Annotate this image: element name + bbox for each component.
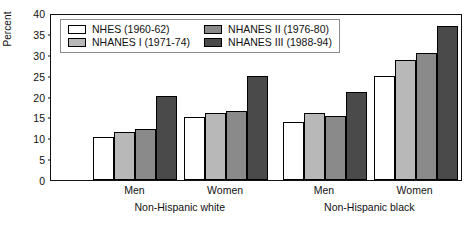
legend-label-1: NHANES I (1971-74) [92,36,190,48]
bar-3-3 [437,26,458,180]
bar-0-0 [93,137,114,180]
bar-3-2 [416,53,437,180]
y-tick-label-30: 30 [33,51,45,61]
white-swatch-icon [68,25,86,34]
x-tick-label-2: Men [314,184,334,196]
x-tick-label-1: Women [207,184,243,196]
medium-gray-swatch-icon [204,25,222,34]
bar-2-2 [325,116,346,180]
y-tick-label-40: 40 [33,9,45,19]
y-tick-label-20: 20 [33,93,45,103]
legend-label-0: NHES (1960-62) [92,23,170,35]
y-axis-title: Percent [2,0,16,74]
bar-0-1 [114,132,135,180]
bar-3-1 [395,60,416,180]
bar-1-3 [247,76,268,180]
y-tick-label-35: 35 [33,30,45,40]
bar-2-0 [283,122,304,180]
legend-label-2: NHANES II (1976-80) [228,23,329,35]
bar-3-0 [374,76,395,180]
x-group-label-1: Non-Hispanic black [324,201,414,213]
y-tick-label-0: 0 [39,176,45,186]
x-axis-tick-labels: MenWomenMenWomen [50,184,462,198]
x-axis-group-labels: Non-Hispanic whiteNon-Hispanic black [50,201,462,215]
bar-0-3 [156,96,177,180]
bar-2-1 [304,113,325,180]
legend-item-1: NHANES I (1971-74) [68,36,190,48]
legend-item-3: NHANES III (1988-94) [204,36,332,48]
y-axis-ticks: 0510152025303540 [20,14,48,181]
x-tick-label-0: Men [124,184,144,196]
bar-chart: Percent 0510152025303540 NHES (1960-62)N… [0,0,470,227]
chart-legend: NHES (1960-62)NHANES II (1976-80)NHANES … [60,19,340,53]
y-tick-label-10: 10 [33,134,45,144]
legend-label-3: NHANES III (1988-94) [228,36,332,48]
y-tick-label-15: 15 [33,113,45,123]
dark-gray-swatch-icon [204,38,222,47]
bar-0-2 [135,129,156,180]
bar-1-2 [226,111,247,180]
legend-item-0: NHES (1960-62) [68,23,190,35]
bar-1-0 [184,117,205,180]
bar-1-1 [205,113,226,180]
x-tick-label-3: Women [397,184,433,196]
light-gray-swatch-icon [68,38,86,47]
legend-item-2: NHANES II (1976-80) [204,23,332,35]
y-tick-label-5: 5 [39,155,45,165]
y-tick-label-25: 25 [33,72,45,82]
bar-group-3 [372,15,460,180]
x-group-label-0: Non-Hispanic white [135,201,225,213]
bar-2-3 [346,92,367,180]
